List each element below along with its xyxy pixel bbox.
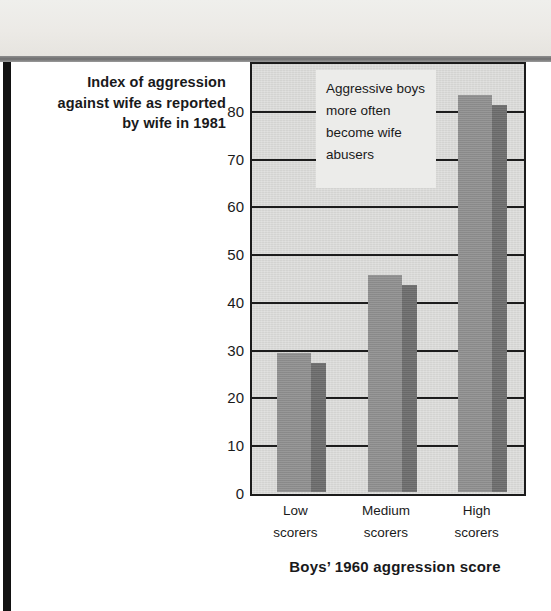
bar-side-face (311, 363, 326, 492)
annotation-line-2: more often (326, 100, 426, 122)
bar-side-face (492, 105, 507, 492)
y-tick-label-50: 50 (196, 246, 244, 263)
x-tick-label-line: scorers (340, 522, 432, 544)
page-top-margin (0, 0, 551, 56)
x-tick-label-high-scorers: Highscorers (431, 500, 523, 544)
bar-low-scorers (277, 353, 311, 492)
y-tick-label-0: 0 (196, 485, 244, 502)
bar-high-scorers (458, 95, 492, 492)
x-axis-tick-labels: LowscorersMediumscorersHighscorers (250, 500, 526, 546)
y-tick-label-70: 70 (196, 151, 244, 168)
x-tick-label-line: Low (249, 500, 341, 522)
y-tick-label-20: 20 (196, 389, 244, 406)
bar-side-face (402, 285, 417, 492)
bar-front-face (458, 95, 492, 492)
bar-front-face (368, 275, 402, 492)
x-tick-label-medium-scorers: Mediumscorers (340, 500, 432, 544)
figure-page: Index of aggression against wife as repo… (0, 0, 551, 611)
bar-medium-scorers (368, 275, 402, 492)
x-tick-label-line: scorers (431, 522, 523, 544)
annotation-callout: Aggressive boys more often become wife a… (316, 70, 436, 188)
annotation-line-4: abusers (326, 144, 426, 166)
x-tick-label-line: Medium (340, 500, 432, 522)
x-tick-label-low-scorers: Lowscorers (249, 500, 341, 544)
x-tick-label-line: High (431, 500, 523, 522)
y-axis-tick-labels: 80706050403020100 (196, 62, 244, 496)
y-tick-label-80: 80 (196, 103, 244, 120)
page-left-black-bar (3, 62, 11, 611)
x-tick-label-line: scorers (249, 522, 341, 544)
annotation-line-3: become wife (326, 122, 426, 144)
x-axis-title: Boys’ 1960 aggression score (250, 558, 540, 575)
annotation-line-1: Aggressive boys (326, 78, 426, 100)
y-tick-label-10: 10 (196, 437, 244, 454)
y-tick-label-30: 30 (196, 342, 244, 359)
y-tick-label-40: 40 (196, 294, 244, 311)
y-tick-label-60: 60 (196, 198, 244, 215)
bar-front-face (277, 353, 311, 492)
